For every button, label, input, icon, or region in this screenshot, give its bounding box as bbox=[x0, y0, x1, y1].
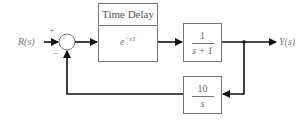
feedback-block: 10 s bbox=[183, 76, 222, 114]
time-delay-block: Time Delay e−sT bbox=[98, 3, 158, 62]
plus-sign: + bbox=[49, 26, 55, 36]
time-delay-expression: e−sT bbox=[99, 35, 157, 47]
feedback-denominator: s bbox=[201, 99, 205, 109]
delay-exponent: −sT bbox=[125, 35, 136, 43]
output-label: Y(s) bbox=[279, 37, 295, 47]
fraction-bar bbox=[192, 96, 214, 97]
summing-junction bbox=[59, 34, 75, 50]
plant-denominator: s + 1 bbox=[192, 46, 213, 56]
minus-sign: − bbox=[53, 49, 59, 59]
feedback-transfer-function: 10 s bbox=[184, 84, 221, 109]
feedback-numerator: 10 bbox=[198, 84, 208, 94]
time-delay-title: Time Delay bbox=[99, 4, 157, 26]
fraction-bar bbox=[192, 43, 214, 44]
plant-numerator: 1 bbox=[200, 31, 205, 41]
feedback-path-to-block bbox=[223, 42, 244, 94]
input-label: R(s) bbox=[18, 37, 35, 47]
plant-transfer-function: 1 s + 1 bbox=[184, 31, 221, 56]
plant-block: 1 s + 1 bbox=[183, 23, 222, 62]
